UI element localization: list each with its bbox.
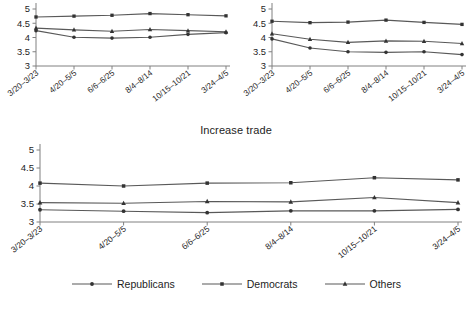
y-axis-tick-label: 3.5 [253, 46, 266, 57]
series-line-others [40, 198, 458, 204]
x-axis-tick-label: 3/20–3/23 [9, 223, 45, 254]
x-axis-tick-label: 4/20–5/5 [48, 68, 79, 95]
chart-legend: RepublicansDemocratsOthers [0, 278, 472, 306]
circle-marker [384, 51, 388, 55]
legend-entry-others[interactable]: Others [324, 278, 402, 290]
legend-swatch [324, 278, 366, 290]
line-chart-top-left: 33.544.553/20–3/234/20–5/56/6–6/258/4–8/… [0, 0, 236, 112]
x-axis-tick-label: 4/20–5/5 [284, 68, 315, 95]
square-marker [289, 181, 293, 185]
y-axis-tick-label: 3.5 [21, 198, 34, 209]
legend-swatch [201, 278, 243, 290]
circle-marker [205, 211, 209, 215]
x-axis-tick-label: 3/24–4/5 [430, 223, 462, 251]
y-axis-tick-label: 3 [261, 60, 266, 71]
x-axis-tick-label: 6/6–6/25 [322, 68, 353, 95]
y-axis-tick-label: 4 [29, 180, 35, 191]
chart-panel-bottom: Increase trade 33.544.553/20–3/234/20–5/… [0, 124, 472, 274]
y-axis-tick-label: 4.5 [253, 18, 266, 29]
line-chart-top-right: 33.544.553/20–3/234/20–5/56/6–6/258/4–8/… [236, 0, 472, 112]
square-marker [122, 184, 126, 188]
square-marker [422, 21, 425, 24]
square-marker [110, 14, 113, 17]
square-marker [148, 12, 151, 15]
legend-label: Others [370, 278, 402, 290]
series-line-republicans [40, 209, 458, 212]
circle-marker [110, 36, 114, 40]
x-axis-tick-label: 10/15–10/21 [387, 68, 429, 103]
y-axis-tick-label: 5 [25, 3, 30, 14]
square-marker [186, 13, 189, 16]
circle-marker [289, 209, 293, 213]
square-marker [38, 181, 42, 185]
x-axis-tick-label: 3/24–4/5 [200, 68, 231, 95]
x-axis-tick-label: 8/4–8/14 [263, 223, 295, 251]
circle-marker [72, 35, 76, 39]
square-marker [72, 14, 75, 17]
square-marker [308, 21, 311, 24]
series-line-others [36, 28, 226, 32]
series-line-democrats [36, 14, 226, 17]
series-line-democrats [40, 178, 458, 186]
square-marker [205, 181, 209, 185]
figure-canvas: 33.544.553/20–3/234/20–5/56/6–6/258/4–8/… [0, 0, 472, 310]
circle-marker [122, 209, 126, 213]
y-axis-tick-label: 3 [25, 60, 30, 71]
x-axis-tick-label: 8/4–8/14 [360, 68, 391, 95]
triangle-marker [270, 31, 274, 35]
x-axis-tick-label: 3/24–4/5 [436, 68, 467, 95]
legend-label: Democrats [247, 278, 298, 290]
circle-marker [148, 35, 152, 39]
x-axis-tick-label: 6/6–6/25 [86, 68, 117, 95]
circle-marker [460, 53, 464, 57]
legend-entry-republicans[interactable]: Republicans [71, 278, 175, 290]
square-marker [460, 23, 463, 26]
legend-label: Republicans [117, 278, 175, 290]
circle-marker [308, 46, 312, 50]
x-axis-tick-label: 10/15–10/21 [336, 223, 379, 260]
x-axis-tick-label: 8/4–8/14 [124, 68, 155, 95]
square-marker [270, 20, 273, 23]
y-axis-tick-label: 4.5 [17, 18, 30, 29]
y-axis-tick-label: 4.5 [21, 162, 34, 173]
y-axis-tick-label: 3 [29, 216, 34, 227]
circle-marker [38, 208, 42, 212]
series-line-democrats [272, 20, 462, 24]
square-marker [34, 15, 37, 18]
square-marker [346, 20, 349, 23]
circle-marker [346, 50, 350, 54]
legend-entry-democrats[interactable]: Democrats [201, 278, 298, 290]
square-marker [456, 178, 460, 182]
circle-marker [186, 33, 190, 37]
chart-panel-top-right: 33.544.553/20–3/234/20–5/56/6–6/258/4–8/… [236, 0, 472, 112]
circle-marker [90, 282, 94, 286]
y-axis-tick-label: 5 [261, 3, 266, 14]
x-axis-tick-label: 3/20–3/23 [242, 68, 277, 98]
square-marker [220, 282, 224, 286]
square-marker [384, 18, 387, 21]
line-chart-bottom: 33.544.553/20–3/234/20–5/56/6–6/258/4–8/… [0, 124, 472, 274]
circle-marker [422, 50, 426, 54]
x-axis-tick-label: 10/15–10/21 [151, 68, 193, 103]
series-line-republicans [36, 31, 226, 38]
circle-marker [270, 37, 274, 41]
y-axis-tick-label: 4 [261, 32, 266, 43]
chart-panel-top-left: 33.544.553/20–3/234/20–5/56/6–6/258/4–8/… [0, 0, 236, 112]
circle-marker [456, 208, 460, 212]
y-axis-tick-label: 5 [29, 144, 34, 155]
y-axis-tick-label: 3.5 [17, 46, 30, 57]
x-axis-tick-label: 4/20–5/5 [96, 223, 128, 251]
square-marker [373, 176, 377, 180]
legend-entries-container: RepublicansDemocratsOthers [0, 278, 472, 290]
x-axis-tick-label: 3/20–3/23 [6, 68, 41, 98]
y-axis-tick-label: 4 [25, 32, 30, 43]
x-axis-tick-label: 6/6–6/25 [180, 223, 212, 251]
series-line-others [272, 34, 462, 44]
circle-marker [373, 209, 377, 213]
legend-swatch [71, 278, 113, 290]
square-marker [224, 14, 227, 17]
